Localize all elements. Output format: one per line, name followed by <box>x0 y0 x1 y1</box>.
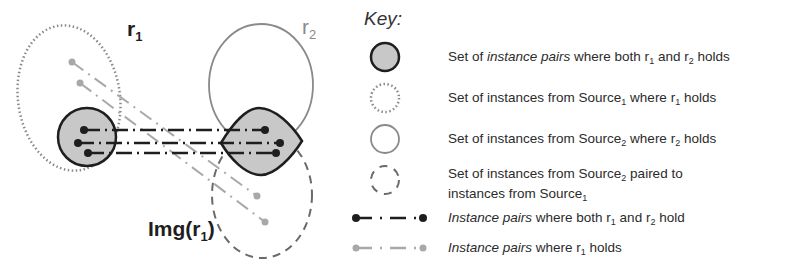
key-item-label: Set of instance pairs where both r1 and … <box>448 48 730 65</box>
key-item-label: Set of instances from Source1 where r1 h… <box>448 89 716 106</box>
filled-circle-icon <box>371 43 399 71</box>
r1-label: r1 <box>127 17 142 44</box>
source2-pair-set <box>221 108 302 175</box>
key-item-label: Instance pairs where r1 holds <box>448 239 622 256</box>
key-item-label: Instance pairs where both r1 and r2 hold <box>448 209 685 226</box>
key-item-label: Set of instances from Source2 where r2 h… <box>448 130 716 147</box>
black-dash-dot-line-icon <box>352 214 427 222</box>
key-title: Key: <box>364 8 402 30</box>
dotted-circle-icon <box>371 84 399 112</box>
gray-dash-dot-line-icon <box>353 245 427 252</box>
r2-label: r2 <box>302 15 316 42</box>
dashed-circle-icon <box>371 166 399 194</box>
img-r1-label: Img(r1) <box>148 217 215 244</box>
source1-pair-set <box>58 108 116 166</box>
key-item-label: Set of instances from Source2 paired toi… <box>448 164 683 204</box>
solid-circle-icon <box>371 125 399 153</box>
